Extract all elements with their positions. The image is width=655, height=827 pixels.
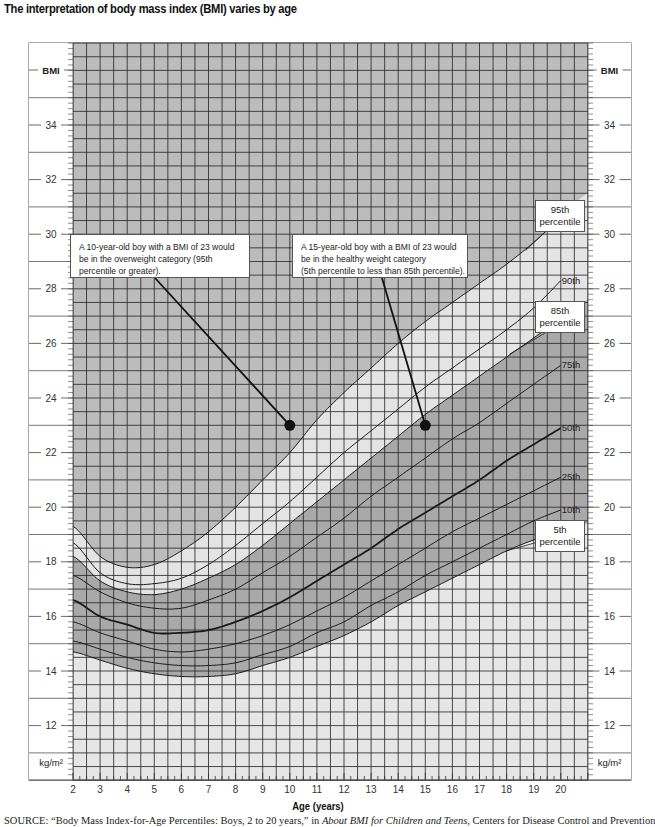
y-axis-unit: kg/m² xyxy=(39,757,63,768)
y-tick-label: 14 xyxy=(45,666,57,677)
y-tick-label: 24 xyxy=(604,393,616,404)
pct-label: percentile xyxy=(538,216,582,228)
x-tick-label: 3 xyxy=(97,784,103,795)
callout-10-year-old: A 10-year-old boy with a BMI of 23 would… xyxy=(70,234,250,278)
source-prefix: SOURCE: xyxy=(4,815,48,826)
source-citation: SOURCE: “Body Mass Index-for-Age Percent… xyxy=(4,815,655,826)
y-tick-label: 16 xyxy=(45,611,57,622)
y-tick-label: 14 xyxy=(604,666,616,677)
callout-15-year-old: A 15-year-old boy with a BMI of 23 would… xyxy=(292,234,468,278)
y-axis-title: BMI xyxy=(601,65,618,76)
x-tick-label: 15 xyxy=(420,784,432,795)
y-tick-label: 32 xyxy=(604,174,616,185)
y-tick-label: 20 xyxy=(604,502,616,513)
y-tick-label: 30 xyxy=(604,229,616,240)
x-tick-label: 13 xyxy=(366,784,378,795)
data-point xyxy=(420,420,431,431)
y-tick-label: 20 xyxy=(45,502,57,513)
x-tick-label: 19 xyxy=(528,784,540,795)
y-axis-left: 121416182022242628303234BMIkg/m² xyxy=(29,43,73,780)
curve-label-p10: 10th xyxy=(562,504,581,515)
x-tick-label: 4 xyxy=(124,784,130,795)
source-suffix: , Centers for Disease Control and Preven… xyxy=(467,815,655,826)
y-tick-label: 26 xyxy=(604,338,616,349)
x-tick-label: 16 xyxy=(447,784,459,795)
pct-label: 5th xyxy=(538,524,582,536)
x-tick-label: 2 xyxy=(70,784,76,795)
pct-label: percentile xyxy=(538,317,582,329)
x-tick-label: 12 xyxy=(338,784,350,795)
callout-line: (5th percentile to less than 85th percen… xyxy=(301,265,443,277)
pct-label: 85th xyxy=(538,305,582,317)
callout-line: percentile or greater). xyxy=(79,265,225,277)
y-tick-label: 28 xyxy=(604,283,616,294)
y-tick-label: 30 xyxy=(45,229,57,240)
x-tick-label: 20 xyxy=(555,784,567,795)
x-tick-label: 17 xyxy=(474,784,486,795)
x-tick-label: 6 xyxy=(179,784,185,795)
label-85th-percentile: 85th percentile xyxy=(535,301,585,333)
y-tick-label: 18 xyxy=(45,556,57,567)
x-tick-label: 5 xyxy=(152,784,158,795)
label-95th-percentile: 95th percentile xyxy=(535,200,585,232)
callout-line: be in the healthy weight category xyxy=(301,253,443,265)
y-tick-label: 12 xyxy=(45,720,57,731)
y-axis-unit: kg/m² xyxy=(598,757,622,768)
x-axis-label: Age (years) xyxy=(45,800,592,812)
y-tick-label: 28 xyxy=(45,283,57,294)
x-tick-label: 8 xyxy=(233,784,239,795)
x-tick-label: 14 xyxy=(393,784,405,795)
curve-label-p75: 75th xyxy=(562,359,581,370)
pct-label: 95th xyxy=(538,204,582,216)
y-tick-label: 22 xyxy=(604,447,616,458)
x-tick-label: 18 xyxy=(501,784,513,795)
y-axis-right: 121416182022242628303234BMIkg/m² xyxy=(588,43,631,780)
y-tick-label: 16 xyxy=(604,611,616,622)
y-tick-label: 32 xyxy=(45,174,57,185)
y-tick-label: 24 xyxy=(45,393,57,404)
x-tick-label: 10 xyxy=(284,784,296,795)
source-text: “Body Mass Index-for-Age Percentiles: Bo… xyxy=(48,815,322,826)
label-5th-percentile: 5th percentile xyxy=(535,520,585,552)
y-axis-title: BMI xyxy=(42,65,59,76)
y-tick-label: 34 xyxy=(45,120,57,131)
curve-label-p90: 90th xyxy=(562,275,581,286)
x-tick-label: 7 xyxy=(206,784,212,795)
x-tick-label: 9 xyxy=(260,784,266,795)
pct-label: percentile xyxy=(538,536,582,548)
callout-line: be in the overweight category (95th xyxy=(79,253,225,265)
y-tick-label: 22 xyxy=(45,447,57,458)
y-tick-label: 34 xyxy=(604,120,616,131)
curve-label-p25: 25th xyxy=(562,471,581,482)
data-point xyxy=(284,420,295,431)
y-tick-label: 18 xyxy=(604,556,616,567)
curve-label-p50: 50th xyxy=(562,422,581,433)
y-tick-label: 12 xyxy=(604,720,616,731)
callout-line: A 10-year-old boy with a BMI of 23 would xyxy=(79,241,225,253)
source-title: About BMI for Children and Teens xyxy=(322,815,467,826)
y-tick-label: 26 xyxy=(45,338,57,349)
callout-line: A 15-year-old boy with a BMI of 23 would xyxy=(301,241,443,253)
x-tick-label: 11 xyxy=(312,784,323,795)
